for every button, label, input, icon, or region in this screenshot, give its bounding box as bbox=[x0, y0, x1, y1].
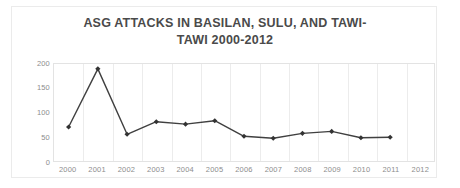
line-series-svg bbox=[54, 64, 434, 161]
data-point-marker bbox=[95, 66, 100, 71]
y-axis-tick-100: 100 bbox=[37, 108, 50, 117]
data-point-marker bbox=[329, 129, 334, 134]
data-point-marker bbox=[300, 131, 305, 136]
y-axis-tick-labels: 050100150200 bbox=[24, 57, 50, 169]
data-point-marker bbox=[271, 136, 276, 141]
chart-card: ASG ATTACKS IN BASILAN, SULU, AND TAWI- … bbox=[11, 6, 437, 178]
data-point-marker bbox=[358, 135, 363, 140]
x-axis-tick-labels: 2000200120022003200420052006200720082009… bbox=[53, 165, 435, 179]
data-point-marker bbox=[212, 118, 217, 123]
chart-title: ASG ATTACKS IN BASILAN, SULU, AND TAWI- … bbox=[40, 15, 410, 49]
data-point-marker bbox=[183, 122, 188, 127]
x-axis-tick-2012: 2012 bbox=[400, 165, 440, 174]
y-axis-tick-200: 200 bbox=[37, 59, 50, 68]
data-point-marker bbox=[154, 119, 159, 124]
y-axis-tick-150: 150 bbox=[37, 83, 50, 92]
data-point-marker bbox=[124, 132, 129, 137]
plot-area bbox=[53, 63, 435, 162]
y-axis-tick-50: 50 bbox=[41, 133, 50, 142]
data-point-marker bbox=[66, 125, 71, 130]
chart-title-line-2: TAWI 2000-2012 bbox=[40, 32, 410, 49]
chart-title-line-1: ASG ATTACKS IN BASILAN, SULU, AND TAWI- bbox=[40, 15, 410, 32]
data-line bbox=[69, 69, 391, 138]
data-point-marker bbox=[388, 135, 393, 140]
data-point-marker bbox=[241, 134, 246, 139]
